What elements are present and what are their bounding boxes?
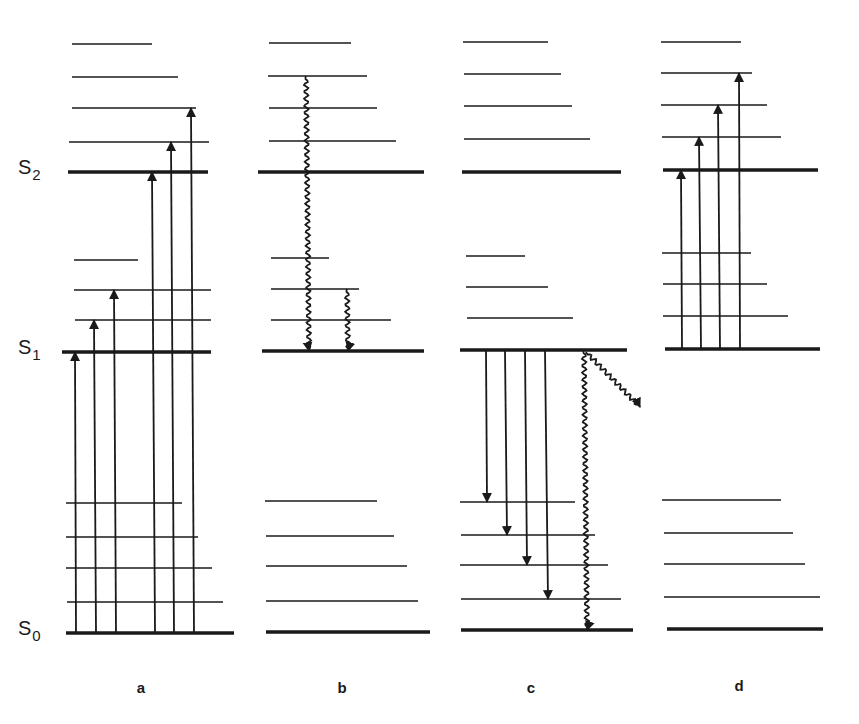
- panel-c: c: [460, 42, 640, 696]
- state-subscript: 1: [32, 346, 40, 363]
- up-arrow-transition: [114, 290, 116, 633]
- state-letter: S: [18, 617, 31, 639]
- panel-label-d: d: [734, 677, 743, 694]
- state-label-S0: S0: [18, 617, 41, 644]
- state-label-S2: S2: [18, 156, 41, 183]
- up-arrow-transition: [681, 170, 682, 349]
- panel-label-b: b: [337, 679, 346, 696]
- wavy-transition-arrow: [586, 352, 640, 407]
- panel-d: d: [661, 42, 823, 694]
- panel-a: a: [62, 44, 234, 696]
- wavy-transition-arrow: [304, 76, 311, 351]
- wavy-transition-arrow: [582, 350, 589, 630]
- panel-label-c: c: [527, 679, 535, 696]
- down-arrow-transition: [505, 350, 507, 535]
- down-arrow-transition: [545, 350, 548, 599]
- down-arrow-transition: [525, 350, 527, 565]
- jablonski-diagram: S2S1S0 abcd: [0, 0, 859, 724]
- up-arrow-transition: [171, 142, 174, 633]
- up-arrow-transition: [739, 73, 740, 349]
- down-arrow-transition: [486, 350, 487, 502]
- panels: abcd: [62, 42, 823, 696]
- up-arrow-transition: [152, 172, 155, 633]
- up-arrow-transition: [191, 108, 194, 633]
- panel-label-a: a: [137, 679, 146, 696]
- panel-b: b: [258, 43, 430, 696]
- up-arrow-transition: [94, 320, 96, 633]
- state-letter: S: [18, 156, 31, 178]
- state-labels: S2S1S0: [18, 156, 41, 644]
- state-subscript: 2: [32, 166, 40, 183]
- state-label-S1: S1: [18, 336, 41, 363]
- up-arrow-transition: [75, 352, 76, 633]
- state-letter: S: [18, 336, 31, 358]
- up-arrow-transition: [718, 105, 720, 349]
- state-subscript: 0: [32, 627, 40, 644]
